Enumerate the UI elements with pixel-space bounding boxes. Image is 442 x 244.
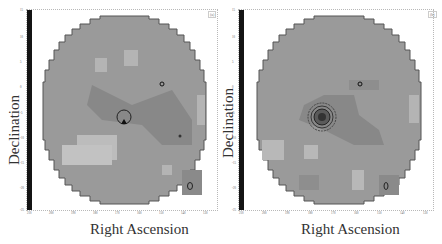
x-tick: 210 — [27, 211, 32, 215]
x-tick: 130 — [423, 211, 428, 215]
x-tick: 160 — [137, 211, 142, 215]
x-axis-label: Right Ascension — [301, 221, 400, 238]
x-tick: 130 — [203, 211, 208, 215]
x-tick: 210 — [239, 211, 244, 215]
x-tick: 150 — [377, 211, 382, 215]
y-tick: -25 — [232, 208, 236, 212]
x-tick: 200 — [49, 211, 54, 215]
sky-map-panel-b: (b) 15 10 5 0 -5 -10 -15 -20 -25 210 200… — [221, 0, 442, 244]
x-tick: 180 — [93, 211, 98, 215]
x-tick: 200 — [262, 211, 267, 215]
panel-label: (b) — [428, 11, 437, 18]
plot-frame — [238, 9, 434, 211]
y-tick: 0 — [20, 85, 22, 89]
y-tick: -25 — [20, 208, 24, 212]
y-axis-label: Declination — [6, 95, 23, 165]
x-tick: 170 — [115, 211, 120, 215]
sky-map-disk — [244, 10, 433, 210]
x-tick: 150 — [159, 211, 164, 215]
y-tick: -20 — [20, 186, 24, 190]
y-tick: 5 — [232, 60, 234, 64]
y-tick: 10 — [232, 35, 235, 39]
sky-map-disk — [32, 10, 217, 210]
x-tick: 180 — [308, 211, 313, 215]
y-tick: -15 — [232, 161, 236, 165]
y-axis-label: Declination — [220, 88, 237, 158]
x-tick: 160 — [354, 211, 359, 215]
y-tick: 5 — [20, 60, 22, 64]
sky-map-panel-a: (a) 15 10 5 0 -5 -10 -15 -20 -25 210 200… — [0, 0, 221, 244]
x-axis-label: Right Ascension — [90, 221, 189, 238]
x-tick: 140 — [181, 211, 186, 215]
y-tick: -20 — [232, 186, 236, 190]
y-tick: 10 — [20, 35, 23, 39]
x-tick: 190 — [71, 211, 76, 215]
plot-frame — [26, 9, 218, 211]
x-tick: 170 — [331, 211, 336, 215]
x-tick: 140 — [400, 211, 405, 215]
y-tick: 15 — [20, 8, 23, 12]
x-tick: 190 — [285, 211, 290, 215]
y-tick: 15 — [232, 8, 235, 12]
panel-label: (a) — [208, 11, 216, 18]
